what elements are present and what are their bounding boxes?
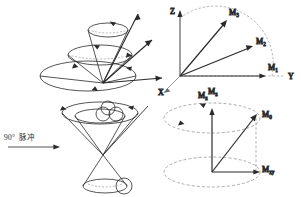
pulse-annotation: 90°脉冲 <box>4 131 34 142</box>
axis-label-z: Z <box>170 7 175 16</box>
axis-label-x: X <box>158 88 164 97</box>
figure-canvas: Z Y X M3 M2 M1 Mz <box>0 0 301 197</box>
axis-label-y: Y <box>288 72 294 81</box>
pulse-chinese-label: 脉冲 <box>19 133 34 142</box>
figure-background <box>0 0 301 197</box>
pulse-degrees-label: 90° <box>4 133 15 142</box>
